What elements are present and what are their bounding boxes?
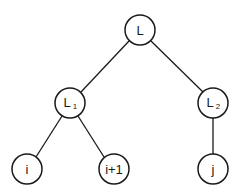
node-L: L [125, 15, 155, 45]
svg-text:2: 2 [216, 102, 221, 111]
node-i: i [12, 154, 42, 184]
node-L2: L 2 [198, 88, 228, 118]
svg-text:L: L [136, 23, 143, 38]
svg-text:L: L [206, 95, 213, 110]
svg-text:i+1: i+1 [105, 162, 123, 177]
node-L1: L 1 [55, 88, 85, 118]
edge-L-L1 [81, 41, 129, 92]
svg-text:L: L [63, 95, 70, 110]
edge-L-L2 [151, 41, 203, 92]
node-i-plus-1: i+1 [99, 154, 129, 184]
svg-text:1: 1 [73, 102, 78, 111]
tree-diagram: L L 1 L 2 i i+1 j [0, 0, 243, 194]
svg-text:j: j [211, 162, 215, 177]
svg-text:i: i [26, 162, 29, 177]
edge-L1-i1 [78, 116, 104, 157]
node-j: j [198, 154, 228, 184]
edge-L1-i [36, 116, 62, 157]
